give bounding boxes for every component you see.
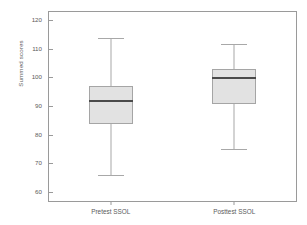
upper-whisker-cap: [98, 38, 124, 39]
median-line: [89, 100, 133, 102]
y-tick-mark: [49, 192, 53, 193]
y-tick-label: 60: [35, 188, 42, 196]
y-tick-mark: [49, 20, 53, 21]
y-tick-mark: [49, 106, 53, 107]
boxplot-chart: Summed scores 60708090100110120 Pretest …: [0, 0, 307, 225]
median-line: [212, 77, 256, 79]
lower-whisker-cap: [221, 149, 247, 150]
upper-whisker-line: [110, 38, 111, 87]
y-tick-mark: [49, 135, 53, 136]
y-tick-label: 70: [35, 159, 42, 167]
upper-whisker-line: [234, 44, 235, 70]
upper-whisker-cap: [221, 44, 247, 45]
y-axis-title: Summed scores: [17, 14, 24, 114]
lower-whisker-cap: [98, 175, 124, 176]
lower-whisker-line: [234, 104, 235, 150]
y-tick-label: 120: [32, 16, 42, 24]
y-tick-mark: [49, 77, 53, 78]
y-tick-label: 100: [32, 73, 42, 81]
y-tick-label: 90: [35, 102, 42, 110]
x-tick-mark: [110, 201, 111, 205]
x-tick-mark: [234, 201, 235, 205]
x-tick-label: Pretest SSOL: [91, 207, 130, 216]
x-tick-label: Posttest SSOL: [213, 207, 255, 216]
plot-area: 60708090100110120 Pretest SSOLPosttest S…: [48, 11, 297, 202]
boxplot-box: [194, 12, 274, 201]
iqr-box: [212, 69, 256, 103]
y-tick-mark: [49, 49, 53, 50]
lower-whisker-line: [110, 124, 111, 176]
y-tick-mark: [49, 163, 53, 164]
y-tick-label: 80: [35, 131, 42, 139]
y-tick-label: 110: [32, 45, 42, 53]
iqr-box: [89, 86, 133, 123]
boxplot-box: [71, 12, 151, 201]
